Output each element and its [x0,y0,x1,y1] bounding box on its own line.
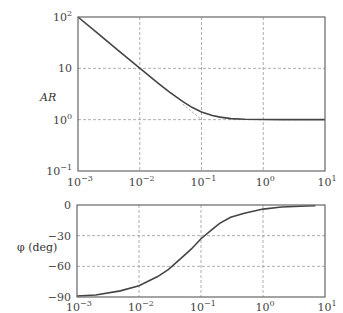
magnitude-plot: 1021010010−110−310−210−1100101AR [39,9,337,189]
x-tick-label: 10−1 [190,299,216,313]
x-tick-label: 100 [256,174,275,189]
asymptote-segment [183,104,202,119]
y-tick-label: 102 [53,9,72,24]
y-tick-label: 100 [53,112,72,127]
phase-plot: 0−30−60−9010−310−210−1100101φ (deg) [17,199,337,313]
x-tick-label: 10−3 [66,299,92,313]
phase-curve [77,206,315,296]
y-axis-label: AR [39,91,56,104]
y-tick-label: −60 [48,260,71,273]
x-tick-label: 10−1 [191,174,217,189]
x-tick-label: 10−3 [67,174,93,189]
bode-figure: 1021010010−110−310−210−1100101AR 0−30−60… [0,0,343,313]
x-tick-label: 10−2 [128,299,154,313]
x-tick-label: 101 [317,174,336,189]
y-tick-label: 0 [64,199,71,212]
x-tick-label: 100 [255,299,274,313]
y-tick-label: 10 [58,62,72,75]
x-tick-label: 101 [317,299,336,313]
y-axis-label: φ (deg) [17,241,57,254]
x-tick-label: 10−2 [129,174,155,189]
